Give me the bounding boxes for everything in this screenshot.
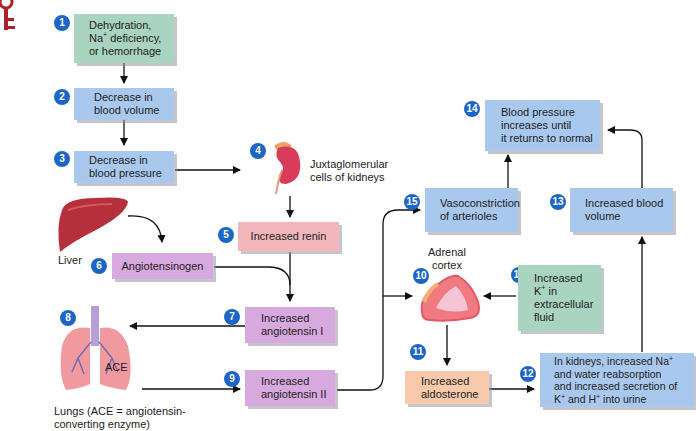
step-6-angiotensinogen-box: Angiotensinogen (112, 253, 213, 279)
step-16-potassium-box: Increased K+ in extracellular fluid (518, 265, 601, 331)
step-9-line-2: angiotensin II (261, 388, 326, 401)
kidney-icon (270, 140, 304, 196)
step-12-badge: 12 (520, 366, 536, 382)
step-4-label: Juxtaglomerular cells of kidneys (310, 158, 388, 184)
step-12-line-1: In kidneys, increased Na+ (554, 355, 677, 368)
step-14-line-3: it returns to normal (501, 132, 593, 145)
step-3-line-1: Decrease in (89, 154, 162, 167)
step-1-line-1: Dehydration, (89, 19, 161, 32)
step-1-line-3: or hemorrhage (89, 45, 161, 58)
step-9-line-1: Increased (261, 375, 326, 388)
step-7-line-2: angiotensin I (261, 325, 323, 338)
step-6-text: Angiotensinogen (122, 260, 204, 273)
liver-label: Liver (58, 254, 82, 267)
step-1-line-2: Na+ deficiency, (89, 32, 161, 45)
adrenal-cortex-label: Adrenal cortex (428, 246, 466, 272)
step-9-angiotensin-ii-box: Increased angiotensin II (245, 370, 335, 406)
step-2-blood-volume-box: Decrease in blood volume (74, 88, 174, 120)
step-14-blood-pressure-normal-box: Blood pressure increases until it return… (485, 100, 600, 151)
step-11-aldosterone-box: Increased aldosterone (405, 371, 489, 404)
step-14-line-2: increases until (501, 119, 593, 132)
step-1-dehydration-box: Dehydration, Na+ deficiency, or hemorrha… (74, 14, 174, 63)
step-7-line-1: Increased (261, 312, 323, 325)
adrenal-gland-icon (418, 272, 484, 324)
step-15-badge: 15 (404, 194, 420, 210)
step-11-badge: 11 (410, 344, 426, 360)
step-5-text: Increased renin (251, 230, 327, 243)
step-7-angiotensin-i-box: Increased angiotensin I (245, 307, 335, 343)
step-2-badge: 2 (54, 89, 70, 105)
ace-label: ACE (105, 361, 128, 374)
step-15-line-2: of arterioles (440, 210, 520, 223)
step-12-line-4: K+ and H+ into urine (554, 393, 677, 406)
liver-icon (56, 196, 130, 252)
step-2-line-1: Decrease in (94, 91, 159, 104)
step-3-blood-pressure-box: Decrease in blood pressure (74, 151, 174, 183)
step-11-line-1: Increased (421, 375, 479, 388)
step-2-line-2: blood volume (94, 104, 159, 117)
step-7-badge: 7 (224, 309, 240, 325)
step-13-line-2: volume (585, 210, 663, 223)
step-12-kidney-reabsorption-box: In kidneys, increased Na+ and water reab… (540, 353, 694, 407)
step-16-line-1: Increased (534, 272, 593, 285)
step-16-line-2: K+ in (534, 285, 593, 298)
step-13-line-1: Increased blood (585, 197, 663, 210)
lungs-caption: Lungs (ACE = angiotensin- converting enz… (54, 405, 186, 431)
step-1-badge: 1 (54, 15, 70, 31)
step-13-badge: 13 (550, 194, 566, 210)
step-9-badge: 9 (224, 371, 240, 387)
step-3-line-2: blood pressure (89, 167, 162, 180)
step-5-badge: 5 (218, 227, 234, 243)
step-16-line-3: extracellular (534, 298, 593, 311)
step-15-vasoconstriction-box: Vasoconstriction of arterioles (425, 188, 518, 232)
step-6-badge: 6 (91, 258, 107, 274)
step-4-badge: 4 (250, 143, 266, 159)
step-3-badge: 3 (54, 151, 70, 167)
step-16-line-4: fluid (534, 311, 593, 324)
step-12-line-2: and water reabsorption (554, 368, 677, 381)
step-15-line-1: Vasoconstriction (440, 197, 520, 210)
step-12-line-3: and increased secretion of (554, 380, 677, 393)
step-5-renin-box: Increased renin (238, 222, 339, 251)
step-13-blood-volume-box: Increased blood volume (570, 188, 673, 232)
step-14-line-1: Blood pressure (501, 106, 593, 119)
step-14-badge: 14 (464, 101, 480, 117)
step-11-line-2: aldosterone (421, 388, 479, 401)
lungs-icon (58, 306, 134, 394)
